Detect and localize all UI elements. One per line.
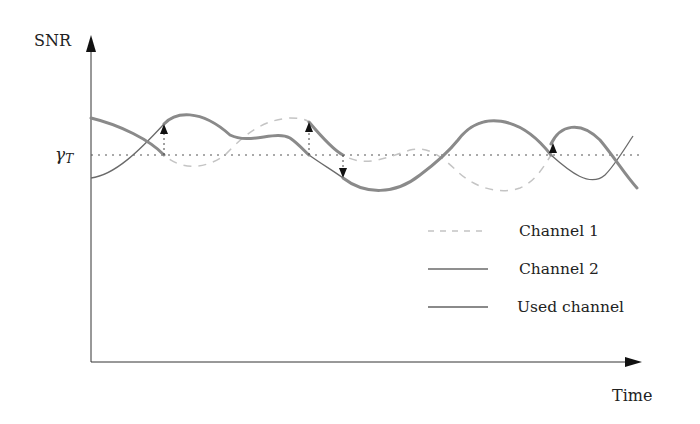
legend-used-channel-label: Used channel (517, 298, 624, 316)
threshold-label: γT (55, 144, 74, 166)
threshold-subscript: T (65, 152, 74, 166)
switch-1-up-arrow-icon (160, 124, 168, 134)
snr-channel-switching-diagram: SNR Time γT Channel 1 Channel 2 Used cha… (0, 0, 700, 424)
x-axis-label: Time (612, 386, 652, 405)
x-axis-arrowhead (625, 357, 642, 367)
legend-channel-1-label: Channel 1 (519, 222, 599, 240)
y-axis-arrowhead (86, 35, 96, 52)
legend-channel-2-label: Channel 2 (519, 260, 599, 278)
legend: Channel 1 Channel 2 Used channel (428, 222, 624, 316)
y-axis-label: SNR (34, 31, 72, 50)
